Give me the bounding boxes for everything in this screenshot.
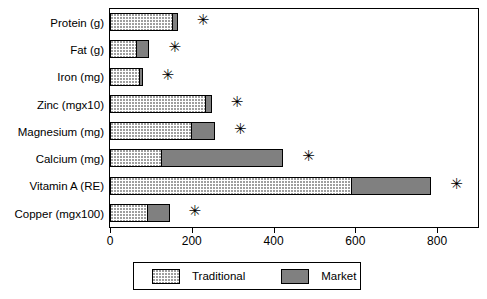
stacked-bar	[110, 68, 143, 86]
bar-segment-market	[161, 149, 284, 167]
bar-row: ✳	[110, 9, 478, 36]
y-axis-label-calcium: Calcium (mg)	[0, 153, 104, 165]
bar-row: ✳	[110, 64, 478, 91]
bar-segment-traditional	[110, 40, 137, 58]
stacked-bar	[110, 177, 431, 195]
significance-star-icon: ✳	[231, 93, 244, 111]
x-axis: 0200400600800	[109, 228, 479, 254]
significance-star-icon: ✳	[302, 147, 315, 165]
bar-segment-traditional	[110, 13, 173, 31]
stacked-bar	[110, 40, 149, 58]
y-axis-label-copper: Copper (mgx100)	[0, 208, 104, 220]
significance-star-icon: ✳	[234, 120, 247, 138]
y-axis-label-protein: Protein (g)	[0, 17, 104, 29]
bar-segment-market	[205, 95, 211, 113]
significance-star-icon: ✳	[162, 66, 175, 84]
bar-segment-traditional	[110, 177, 352, 195]
x-axis-tick-label: 600	[345, 234, 365, 248]
x-axis-tick	[355, 228, 356, 233]
y-axis-category-labels: Protein (g) Fat (g) Iron (mg) Zinc (mgx1…	[0, 8, 104, 228]
market-swatch-icon	[281, 269, 309, 284]
y-axis-label-vitamin-a: Vitamin A (RE)	[0, 180, 104, 192]
x-axis-tick-label: 0	[107, 234, 114, 248]
stacked-bar-chart: Protein (g) Fat (g) Iron (mg) Zinc (mgx1…	[0, 0, 487, 299]
x-axis-tick-label: 800	[427, 234, 447, 248]
bar-segment-market	[351, 177, 432, 195]
bar-segment-traditional	[110, 68, 140, 86]
bar-row: ✳	[110, 145, 478, 172]
y-axis-label-zinc: Zinc (mgx10)	[0, 99, 104, 111]
legend-label-market: Market	[321, 270, 356, 282]
x-axis-tick	[192, 228, 193, 233]
significance-star-icon: ✳	[450, 175, 463, 193]
legend-item-market: Market	[281, 263, 356, 289]
bar-row: ✳	[110, 200, 478, 227]
bar-row: ✳	[110, 36, 478, 63]
y-axis-label-iron: Iron (mg)	[0, 71, 104, 83]
bars-layer: ✳✳✳✳✳✳✳✳	[110, 9, 478, 227]
bar-segment-traditional	[110, 149, 162, 167]
x-axis-tick	[274, 228, 275, 233]
legend-item-traditional: Traditional	[152, 263, 245, 289]
stacked-bar	[110, 13, 178, 31]
bar-segment-market	[139, 68, 142, 86]
bar-row: ✳	[110, 91, 478, 118]
bar-segment-traditional	[110, 122, 192, 140]
stacked-bar	[110, 122, 215, 140]
bar-segment-market	[136, 40, 149, 58]
y-axis-label-magnesium: Magnesium (mg)	[0, 126, 104, 138]
x-axis-tick-label: 200	[182, 234, 202, 248]
significance-star-icon: ✳	[168, 38, 181, 56]
bar-segment-market	[147, 204, 169, 222]
traditional-swatch-icon	[152, 269, 180, 284]
stacked-bar	[110, 149, 283, 167]
y-axis-label-fat: Fat (g)	[0, 44, 104, 56]
x-axis-tick	[437, 228, 438, 233]
x-axis-tick	[110, 228, 111, 233]
bar-segment-traditional	[110, 204, 148, 222]
chart-legend: Traditional Market	[133, 262, 361, 290]
significance-star-icon: ✳	[197, 11, 210, 29]
stacked-bar	[110, 95, 212, 113]
bar-row: ✳	[110, 118, 478, 145]
bar-segment-traditional	[110, 95, 206, 113]
legend-label-traditional: Traditional	[192, 270, 245, 282]
significance-star-icon: ✳	[189, 202, 202, 220]
x-axis-tick-label: 400	[264, 234, 284, 248]
bar-segment-market	[191, 122, 215, 140]
bar-segment-market	[172, 13, 178, 31]
bar-row: ✳	[110, 173, 478, 200]
stacked-bar	[110, 204, 170, 222]
